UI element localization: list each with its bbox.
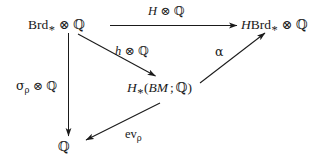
node-hbm-close-paren: ): [187, 80, 192, 95]
sigma-glyph: σ: [16, 78, 25, 93]
edge-label-rationals: ℚ: [138, 43, 149, 58]
edge-label-ev-rho: evρ: [125, 128, 142, 142]
arrow-hbm-to-hbrd: [200, 33, 265, 83]
edge-label-h-tensor-q: H⊗ℚ: [148, 5, 185, 18]
edge-label-rationals: ℚ: [46, 78, 57, 93]
node-hbm-rationals: ℚ: [176, 79, 188, 95]
edge-label-rationals: ℚ: [174, 3, 185, 18]
tensor-icon: ⊗: [55, 17, 73, 32]
node-hbrd-homology-h: H: [241, 17, 251, 32]
tensor-icon: ⊗: [30, 79, 47, 93]
tensor-icon: ⊗: [278, 17, 296, 32]
node-homology-bm-q: H*(BM;ℚ): [127, 81, 192, 100]
tensor-icon: ⊗: [157, 4, 174, 18]
arrow-hbm-to-q: [86, 103, 160, 140]
node-hbrd-name: Brd: [251, 17, 271, 32]
alpha-glyph: α: [215, 44, 223, 59]
node-brd-rationals: ℚ: [73, 16, 85, 32]
edge-label-alpha: α: [215, 46, 223, 59]
node-hbm-homology-h: H: [127, 80, 137, 95]
node-brd-name: Brd: [28, 17, 48, 32]
node-hbm-semicolon: ;: [168, 80, 176, 95]
commutative-diagram: Brd*⊗ℚ HBrd*⊗ℚ H*(BM;ℚ) ℚ H⊗ℚ h⊗ℚ α σρ⊗ℚ…: [0, 0, 320, 165]
node-rationals-bottom: ℚ: [58, 140, 70, 154]
edge-label-h-small-tensor-q: h⊗ℚ: [115, 45, 149, 58]
node-q-bottom-rationals: ℚ: [58, 138, 70, 154]
node-brd-tensor-q: Brd*⊗ℚ: [28, 18, 85, 37]
rho-subscript-glyph: ρ: [25, 85, 30, 95]
node-hbrd-tensor-q: HBrd*⊗ℚ: [241, 18, 308, 37]
node-hbrd-rationals: ℚ: [296, 16, 308, 32]
tensor-icon: ⊗: [121, 44, 138, 58]
edge-label-sigma-rho-tensor-q: σρ⊗ℚ: [16, 80, 57, 94]
edge-label-h: H: [148, 4, 157, 18]
edge-label-ev: ev: [125, 127, 137, 141]
node-hbm-star: *: [137, 86, 144, 100]
rho-subscript-glyph: ρ: [137, 133, 142, 143]
node-hbm-space: BM: [148, 80, 168, 95]
